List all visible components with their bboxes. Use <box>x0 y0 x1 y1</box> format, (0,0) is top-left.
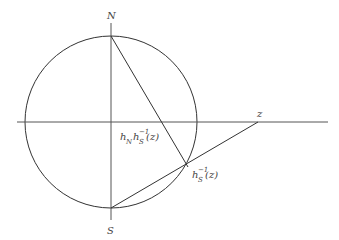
label-hn-hs-inverse: h N h S −1 (z) <box>120 128 159 146</box>
svg-text:S: S <box>139 138 144 146</box>
svg-text:N: N <box>125 138 133 146</box>
svg-text:(z): (z) <box>146 131 159 142</box>
label-z: z <box>256 108 263 119</box>
label-south: S <box>107 225 114 236</box>
svg-text:(z): (z) <box>205 169 218 180</box>
stereographic-diagram: N S z h N h S −1 (z) h S −1 (z) <box>0 0 339 240</box>
line-north-to-inverse <box>111 36 188 167</box>
label-hs-inverse-z: h S −1 (z) <box>192 166 218 184</box>
svg-text:S: S <box>198 176 203 184</box>
diagram-canvas: N S z h N h S −1 (z) h S −1 (z) <box>0 0 339 240</box>
label-north: N <box>106 10 117 21</box>
